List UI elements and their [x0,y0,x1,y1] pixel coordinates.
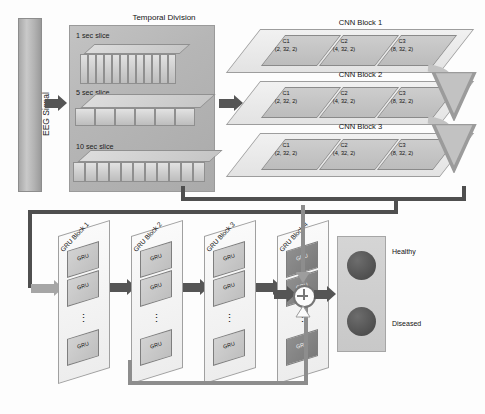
cnn-block-1-conv-3-text: C3 (8, 32, 2) [372,38,432,53]
arrow-gru4-to-sum [274,290,288,299]
slab-cell [128,54,136,84]
conv-params: (2, 32, 2) [256,46,316,54]
slab-cell [193,162,205,182]
slab-top-face [83,44,190,54]
output-label-diseased: Diseased [392,320,421,327]
temporal-division-title: Temporal Division [104,13,224,22]
slab-cell [88,54,96,84]
slab-cell [155,108,175,126]
arrowhead-bottom-into-sum [296,306,310,317]
diagram-canvas: EEG Signal Temporal Division 1 sec slice… [0,0,485,414]
sum-feed-arrowheads [294,266,312,338]
output-node-healthy [347,251,376,280]
slab-cell [135,108,155,126]
slab-cell [95,108,115,126]
route-bottom-horizontal [128,381,308,385]
cnn-block-3-conv-2-text: C2 (4, 32, 2) [314,142,374,157]
arrow-temporal-to-cnn [219,99,235,108]
cnn-block-2-conv-1-text: C1 (2, 32, 2) [256,90,316,105]
conv-name: C1 [256,38,316,46]
conv-params: (4, 32, 2) [314,46,374,54]
output-panel [337,236,386,352]
conv-name: C2 [314,142,374,150]
cnn-block-3-conv-1-text: C1 (2, 32, 2) [256,142,316,157]
slab-cell [136,54,144,84]
slab-cell [144,54,152,84]
output-node-diseased [347,307,376,336]
slab-cell [181,162,193,182]
slab-cell [157,162,169,182]
conv-params: (2, 32, 2) [256,98,316,106]
slab-cell [152,54,160,84]
slab-cell [175,108,195,126]
route-left-vertical [28,210,32,288]
slice-label-1sec: 1 sec slice [76,31,110,40]
route-upper-bus [28,210,398,214]
slab-cell [104,54,112,84]
cnn-block-1-conv-2-text: C2 (4, 32, 2) [314,38,374,53]
cnn-block-1-title: CNN Block 1 [243,18,478,27]
slab-cell [145,162,157,182]
route-top-horizontal [181,197,466,201]
slab-cell [112,54,120,84]
output-label-healthy: Healthy [392,248,416,255]
arrow-cnn1-to-cnn2 [428,68,454,94]
conv-params: (4, 32, 2) [314,150,374,158]
conv-params: (2, 32, 2) [256,150,316,158]
slab-top-face [77,150,222,162]
conv-name: C3 [372,38,432,46]
arrow-gru1-to-gru2 [110,283,128,292]
arrow-eeg-to-temporal [45,99,59,108]
slab-cell [168,54,176,84]
slice-block-10sec [73,162,205,182]
slab-cell [75,108,95,126]
arrow-cnn2-to-cnn3 [428,120,454,146]
route-right-riser [462,186,466,201]
slab-cell [120,54,128,84]
route-bus-riser [394,197,398,213]
slab-cell [160,54,168,84]
slice-block-5sec [75,108,195,126]
eeg-signal-label: EEG Signal [41,34,51,194]
eeg-signal-bar: EEG Signal [18,18,42,192]
temporal-division-panel: 1 sec slice 5 sec slice 10 sec slice [69,25,215,192]
gru-ellipsis: ⋮ [78,316,88,320]
slab-top-face [80,94,216,108]
conv-name: C2 [314,90,374,98]
gru-block-3: GRU GRU GRU ⋮ GRU Block 3 [204,228,256,376]
conv-name: C1 [256,142,316,150]
arrow-gru3-to-gru4 [256,283,274,292]
slab-cell [80,54,88,84]
gru-ellipsis: ⋮ [151,316,161,320]
conv-name: C1 [256,90,316,98]
cnn-block-connector-arrows [420,60,482,188]
arrow-gru2-to-gru3 [183,283,201,292]
slab-cell [115,108,135,126]
slab-cell [85,162,97,182]
conv-params: (4, 32, 2) [314,98,374,106]
slab-cell [109,162,121,182]
cnn-block-1-conv-1-text: C1 (2, 32, 2) [256,38,316,53]
slab-cell [96,54,104,84]
slab-cell [133,162,145,182]
conv-name: C2 [314,38,374,46]
arrow-sum-to-output [314,290,328,299]
gru-block-2: GRU GRU GRU ⋮ GRU Block 2 [131,228,183,376]
slab-cell [121,162,133,182]
arrow-into-gru-block-1 [31,284,55,293]
slice-block-1sec [80,54,176,84]
slab-cell [169,162,181,182]
gru-ellipsis: ⋮ [224,316,234,320]
gru-block-1: GRU GRU GRU ⋮ GRU Block 1 [58,228,110,376]
arrowhead-top-into-sum [296,272,310,283]
slab-cell [97,162,109,182]
cnn-block-2-conv-2-text: C2 (4, 32, 2) [314,90,374,105]
slab-cell [73,162,85,182]
conv-params: (8, 32, 2) [372,46,432,54]
